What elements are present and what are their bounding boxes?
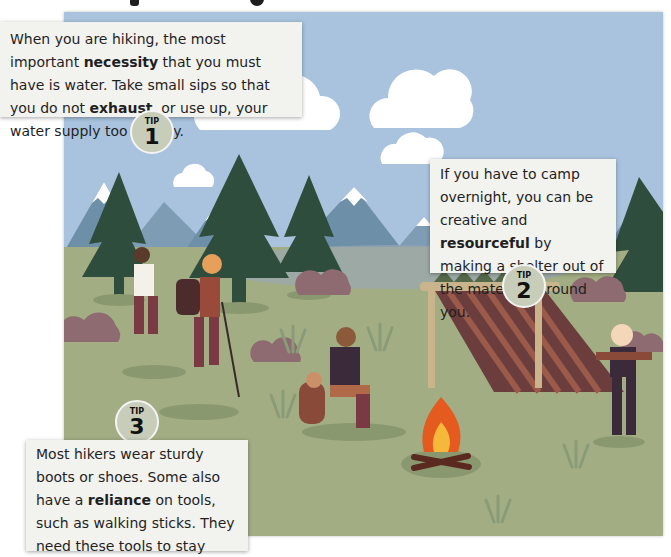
tip-1-textbox: When you are hiking, the most important … xyxy=(0,22,302,117)
tip-3-badge: TIP 3 xyxy=(115,400,159,444)
vocab-word: resourceful xyxy=(440,235,530,251)
cropped-page-title xyxy=(75,0,345,6)
vocab-word: reliance xyxy=(88,492,151,508)
tip-2-badge: TIP 2 xyxy=(502,264,546,308)
tip-1-badge: TIP 1 xyxy=(130,110,174,154)
tip-3-textbox: Most hikers wear sturdy boots or shoes. … xyxy=(26,440,248,551)
tip-2-textbox: If you have to camp overnight, you can b… xyxy=(430,159,616,273)
vocab-word: necessity xyxy=(84,54,159,70)
